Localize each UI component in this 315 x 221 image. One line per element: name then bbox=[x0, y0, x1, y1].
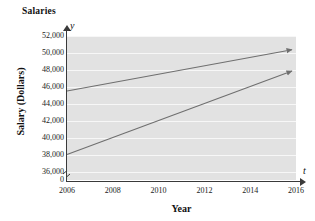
chart-figure: Salaries Salary (Dollars) Year y t 52,00… bbox=[0, 0, 315, 221]
data-line-upper-line bbox=[67, 50, 292, 91]
data-lines-layer bbox=[0, 0, 315, 221]
data-line-lower-line bbox=[67, 71, 292, 155]
